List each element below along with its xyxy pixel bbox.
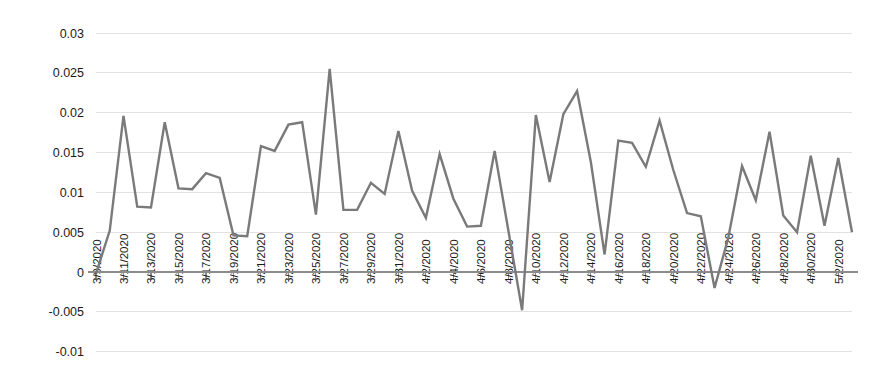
x-axis-tick-label: 3/23/2020 bbox=[283, 233, 295, 284]
x-axis-tick-label: 4/30/2020 bbox=[805, 233, 817, 284]
x-axis-tick-label: 3/21/2020 bbox=[255, 233, 267, 284]
x-axis-tick-label: 4/2/2020 bbox=[420, 239, 432, 284]
x-axis-tick-label: 4/6/2020 bbox=[475, 239, 487, 284]
x-axis-tick-label: 5/2/2020 bbox=[833, 239, 845, 284]
x-axis-tick-label: 3/27/2020 bbox=[338, 233, 350, 284]
x-axis-tick-label: 4/12/2020 bbox=[558, 233, 570, 284]
x-axis-tick-label: 3/25/2020 bbox=[310, 233, 322, 284]
x-axis-tick-label: 4/24/2020 bbox=[723, 233, 735, 284]
y-axis-tick-label: 0.02 bbox=[60, 106, 84, 120]
x-axis-tick-label: 4/28/2020 bbox=[778, 233, 790, 284]
x-axis-tick-label: 3/15/2020 bbox=[173, 233, 185, 284]
x-axis-tick-label: 4/26/2020 bbox=[750, 233, 762, 284]
x-axis-tick-label: 3/17/2020 bbox=[200, 233, 212, 284]
x-axis-tick-label: 4/14/2020 bbox=[585, 233, 597, 284]
x-axis-tick-label: 3/13/2020 bbox=[145, 233, 157, 284]
y-axis-tick-label: 0 bbox=[77, 266, 84, 280]
x-axis-tick-label: 3/29/2020 bbox=[365, 233, 377, 284]
chart-canvas: 0.030.0250.020.0150.010.0050-0.005-0.01 … bbox=[0, 0, 874, 386]
y-axis-tick-label: -0.01 bbox=[56, 345, 85, 359]
x-axis-tick-label: 3/31/2020 bbox=[393, 233, 405, 284]
x-axis-tick-label: 4/10/2020 bbox=[530, 233, 542, 284]
x-axis-tick-label: 3/19/2020 bbox=[228, 233, 240, 284]
x-axis-tick-label: 4/4/2020 bbox=[448, 239, 460, 284]
x-axis-labels-group: 3/9/20203/11/20203/13/20203/15/20203/17/… bbox=[91, 233, 845, 284]
y-axis-tick-label: 0.025 bbox=[53, 66, 84, 80]
y-axis-labels-group: 0.030.0250.020.0150.010.0050-0.005-0.01 bbox=[49, 27, 85, 360]
x-axis-tick-label: 4/20/2020 bbox=[668, 233, 680, 284]
line-chart: 0.030.0250.020.0150.010.0050-0.005-0.01 … bbox=[0, 0, 874, 386]
y-axis-tick-label: 0.015 bbox=[53, 146, 84, 160]
y-axis-tick-label: 0.03 bbox=[60, 27, 84, 41]
y-axis-tick-label: 0.005 bbox=[53, 226, 84, 240]
gridlines-group bbox=[96, 33, 852, 352]
x-axis-tick-label: 3/11/2020 bbox=[118, 234, 130, 284]
x-axis-tick-label: 4/16/2020 bbox=[613, 233, 625, 284]
y-axis-tick-label: 0.01 bbox=[60, 186, 84, 200]
x-axis-tick-label: 4/18/2020 bbox=[640, 233, 652, 284]
y-axis-tick-label: -0.005 bbox=[49, 305, 84, 319]
